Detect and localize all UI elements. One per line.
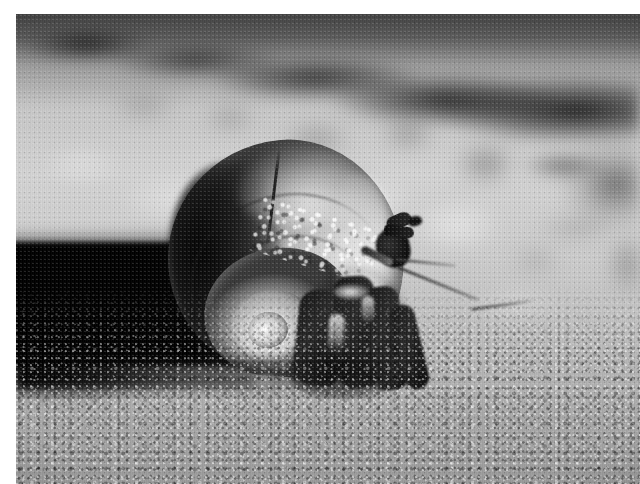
photograph [16,14,640,484]
vignette [16,14,640,484]
photo-frame [0,0,640,484]
